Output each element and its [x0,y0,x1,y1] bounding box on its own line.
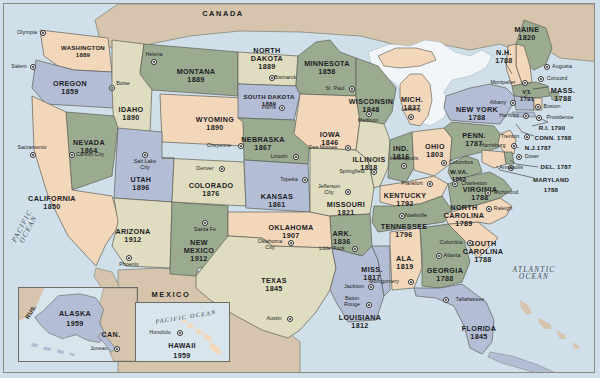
city-label-des-moines: Des Moines [309,145,337,150]
city-label-carson-city: Carson City [76,152,104,157]
capital-dot-montpelier [522,80,528,86]
capital-dot-providence [536,115,542,121]
city-label-montpelier: Montpelier [490,80,515,85]
state-name-WV: W.VA. [450,169,468,175]
state-label-1788: 1788 [544,187,558,193]
city-label-lansing: Lansing [402,107,421,112]
capital-dot-helena [151,59,157,65]
city-label-raleigh: Raleigh [494,206,512,211]
capital-dot-carson-city [69,152,75,158]
state-year-KY: 1792 [396,201,413,208]
state-year-NH: 1788 [495,58,512,65]
capital-dot-austin [287,316,293,322]
city-label-boise: Boise [116,81,130,86]
state-name-VT: VT. [522,89,531,95]
capital-dot-albany [510,100,516,106]
capital-dot-baton-rouge [366,302,372,308]
city-label-tallahassee: Tallahassee [456,297,485,302]
city-label-concord: Concord [547,76,567,81]
capital-dot-oklahoma-city [288,240,294,246]
capital-dot-honolulu [177,330,183,336]
alaska-inset: ALASKA 1959 Juneau RUS. CAN. [18,287,138,362]
capital-dot-dover [516,154,522,160]
state-year-NE: 1867 [254,145,271,152]
capital-dot-little-rock [352,246,358,252]
city-label-richmond: Richmond [494,190,518,195]
state-year-MN: 1858 [318,69,335,76]
state-year-AZ: 1912 [124,237,141,244]
capital-dot-indianapolis [401,163,407,169]
state-year-MA: 1788 [554,96,571,103]
capital-dot-concord [538,76,544,82]
capital-dot-madison [366,111,372,117]
capital-dot-lansing [408,114,414,120]
state-year-NM: 1912 [190,256,207,263]
state-year-NY: 1788 [468,115,485,122]
state-year-ME: 1820 [518,35,535,42]
state-label-conn-1788: CONN. 1788 [535,135,572,141]
state-year-NC: 1789 [455,221,472,228]
capital-dot-jefferson-city [345,189,351,195]
city-label-little-rock: Little Rock [319,246,344,251]
state-label-del-1787: DEL. 1787 [541,164,572,170]
inset-label-hawaii: HAWAII [168,342,196,349]
city-label-columbus: Columbus [449,160,473,165]
state-year-AL: 1819 [396,264,413,271]
capital-dot-trenton [524,134,530,140]
capital-dot-denver [219,166,225,172]
state-year-TN: 1796 [395,232,412,239]
capital-dot-des-moines [345,145,351,151]
state-year-ND: 1889 [258,64,275,71]
city-label-atlanta: Atlanta [444,253,461,258]
state-label-maryland: MARYLAND [533,177,569,183]
capital-dot-boston [535,104,541,110]
capital-dot-topeka [302,177,308,183]
state-year-CA: 1850 [43,204,60,211]
capital-dot-phoenix [126,255,132,261]
inset-year-hawaii: 1959 [173,352,190,359]
city-label-providence: Providence [547,115,574,120]
capital-dot-harrisburg [511,143,517,149]
us-statehood-map: ALASKA 1959 Juneau RUS. CAN. PACIFIC OCE… [0,0,600,378]
city-label-harrisburg: Harrisburg [480,143,505,148]
state-year-UT: 1896 [132,185,149,192]
capital-dot-lincoln [293,154,299,160]
city-label-albany: Albany [490,100,507,105]
city-label-cheyenne: Cheyenne [207,143,232,148]
capital-dot-jackson [368,284,374,290]
city-label-springfield: Springfield [339,169,365,174]
city-label-santa-fe: Santa Fe [194,227,216,232]
state-year-TX: 1845 [265,286,282,293]
state-year-MO: 1821 [337,210,354,217]
state-year-VT: 1791 [520,96,534,102]
city-label-charleston: Charleston [461,181,487,186]
city-label-frankfort: Frankfort [401,181,423,186]
city-label-austin: Austin [266,316,281,321]
capital-dot-olympia [40,30,46,36]
city-label-augusta: Augusta [552,64,572,69]
capital-dot-juneau [114,346,120,352]
inset-label-can: CAN. [102,331,121,338]
inset-year-alaska: 1959 [66,320,83,327]
city-label-montgomery: Montgomery [369,279,399,284]
capital-dot-richmond [485,190,491,196]
city-label-bismarck: Bismarck [274,75,296,80]
city-label-baton-rouge: Rouge [344,302,360,307]
city-label-hartford: Hartford [499,113,519,118]
city-label-dover: Dover [525,154,539,159]
state-label-n-j-1787: N.J.1787 [525,145,551,151]
city-label-annapolis: Annapolis [499,165,523,170]
state-label-r-i-1790: R.I. 1790 [539,125,566,131]
capital-dot-st-paul [349,86,355,92]
country-label-canada: CANADA [202,10,244,18]
capital-dot-columbia [467,240,473,246]
city-label-phoenix: Phoenix [119,262,139,267]
city-label-helena: Helena [145,52,162,57]
city-label-st-paul: St. Paul [326,86,345,91]
capital-dot-sacramento [30,152,36,158]
state-year-GA: 1788 [436,276,453,283]
state-name-WA: WASHINGTON [61,45,105,51]
capital-dot-hartford [523,113,529,119]
capital-dot-columbus [441,160,447,166]
capital-dot-pierre [279,105,285,111]
